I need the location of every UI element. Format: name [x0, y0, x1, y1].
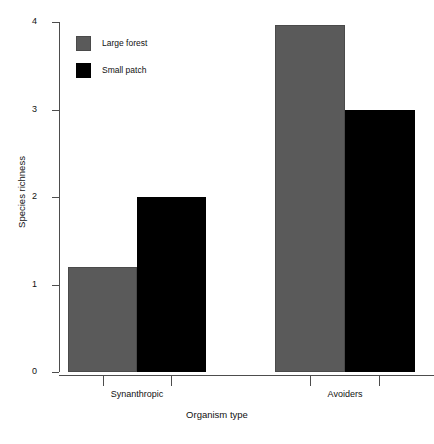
x-axis-group-bracket [103, 376, 172, 386]
y-axis-tick-mark [52, 197, 59, 198]
bar [137, 197, 206, 372]
bar [345, 110, 415, 373]
y-axis-tick-mark [52, 372, 59, 373]
y-axis-tick: 3 [0, 110, 59, 111]
y-axis-tick-label: 4 [21, 17, 37, 26]
y-axis-tick-label: 3 [21, 105, 37, 114]
y-axis-tick-mark [52, 110, 59, 111]
y-axis-tick: 1 [0, 285, 59, 286]
bar [275, 25, 345, 372]
bar-chart-figure: 43210 Species richness SynanthropicAvoid… [0, 0, 434, 444]
y-axis-tick: 2 [0, 197, 59, 198]
y-axis-tick: 4 [0, 22, 59, 23]
y-axis-title: Species richness [17, 132, 27, 252]
legend-swatch-icon [76, 36, 91, 51]
legend-item-label: Small patch [102, 66, 146, 75]
x-axis-group-bracket [310, 376, 380, 386]
legend-swatch-icon [76, 63, 91, 78]
y-axis-tick-mark [52, 285, 59, 286]
y-axis-tick-label: 0 [21, 367, 37, 376]
x-axis-title: Organism type [0, 410, 434, 420]
y-axis-tick-label: 1 [21, 280, 37, 289]
legend-item: Large forest [76, 35, 147, 51]
y-axis-tick-mark [52, 22, 59, 23]
legend: Large forestSmall patch [76, 35, 147, 89]
x-axis-group-label: Avoiders [295, 389, 395, 399]
y-axis-tick: 0 [0, 372, 59, 373]
bar [68, 267, 137, 372]
legend-item-label: Large forest [102, 39, 147, 48]
x-axis-group-label: Synanthropic [87, 389, 187, 399]
legend-item: Small patch [76, 62, 147, 78]
